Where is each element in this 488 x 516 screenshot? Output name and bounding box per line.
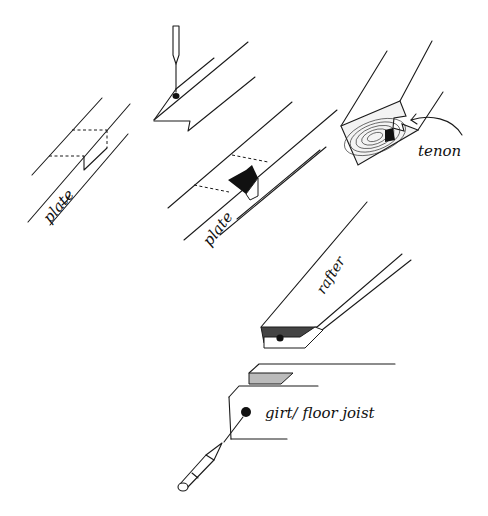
girt-drawing bbox=[178, 364, 395, 491]
peg-hole-icon bbox=[173, 93, 180, 99]
rafter-peg-hole-icon bbox=[276, 334, 283, 341]
label-girt: girt/ floor joist bbox=[265, 404, 376, 422]
joinery-illustration: plate plate bbox=[0, 0, 488, 516]
peg-icon bbox=[173, 26, 179, 64]
left-plate-drawing bbox=[28, 98, 130, 225]
label-tenon: tenon bbox=[418, 142, 461, 160]
label-plate-center: plate bbox=[199, 208, 237, 249]
center-plate-drawing bbox=[168, 102, 337, 240]
tenon-arrow-icon bbox=[411, 117, 462, 135]
label-plate-left: plate bbox=[39, 186, 77, 227]
pencil-icon bbox=[178, 443, 222, 491]
girt-peg-hole-icon bbox=[241, 407, 251, 417]
pegged-beam-drawing bbox=[154, 26, 255, 131]
